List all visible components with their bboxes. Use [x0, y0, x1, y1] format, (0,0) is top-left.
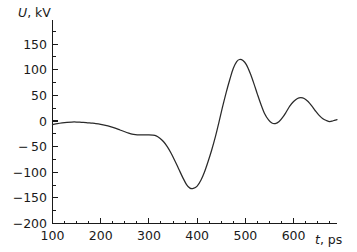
y-axis-title: U, kV: [18, 5, 51, 20]
y-tick-label: −150: [13, 190, 47, 205]
y-axis-ticks: [53, 31, 59, 223]
x-tick-label: 200: [89, 228, 113, 243]
x-axis-ticks: [53, 218, 330, 224]
y-axis-title-variable: U: [18, 5, 27, 20]
axes-group: [52, 20, 337, 224]
x-tick-label: 500: [233, 228, 257, 243]
x-axis-tick-labels: 100200300400500600: [41, 228, 306, 243]
y-tick-label: 50: [31, 88, 47, 103]
data-series-line: [53, 59, 338, 188]
voltage-vs-time-plot: 150100500− 50−100−150−200 10020030040050…: [0, 0, 357, 252]
x-tick-label: 100: [41, 228, 65, 243]
x-axis-title-unit: , ps: [320, 232, 342, 247]
x-axis-title: t, ps: [315, 232, 342, 247]
y-axis-title-unit: , kV: [27, 5, 51, 20]
y-axis-tick-labels: 150100500− 50−100−150−200: [13, 37, 47, 231]
y-tick-label: 150: [23, 37, 47, 52]
y-tick-label: 0: [39, 114, 47, 129]
y-tick-label: − 50: [18, 139, 47, 154]
chart-figure: 150100500− 50−100−150−200 10020030040050…: [0, 0, 357, 252]
y-tick-label: 100: [23, 62, 47, 77]
x-tick-label: 400: [185, 228, 209, 243]
x-tick-label: 300: [137, 228, 161, 243]
x-tick-label: 600: [282, 228, 306, 243]
y-tick-label: −100: [13, 165, 47, 180]
